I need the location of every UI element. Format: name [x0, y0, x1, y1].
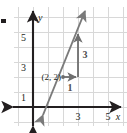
x-tick-label-5: 5: [106, 111, 111, 122]
y-tick-label-5: 5: [21, 32, 26, 43]
y-axis-label: y: [37, 12, 43, 23]
slope-graph-figure: 5 3 1 3 5 y x (2, 2) 1 3: [0, 0, 127, 133]
y-tick-label-1: 1: [21, 92, 26, 103]
coordinate-plane-svg: 5 3 1 3 5 y x (2, 2) 1 3: [0, 0, 127, 133]
y-tick-label-3: 3: [21, 62, 26, 73]
grid-lines: [14, 7, 127, 126]
bullet-mark: [1, 19, 6, 23]
point-coordinate-label: (2, 2): [42, 72, 62, 82]
rise-length-label: 3: [83, 49, 88, 60]
x-axis-label: x: [115, 111, 121, 122]
run-length-label: 1: [68, 82, 73, 93]
x-tick-label-3: 3: [76, 111, 81, 122]
axis-lines: [13, 11, 121, 126]
